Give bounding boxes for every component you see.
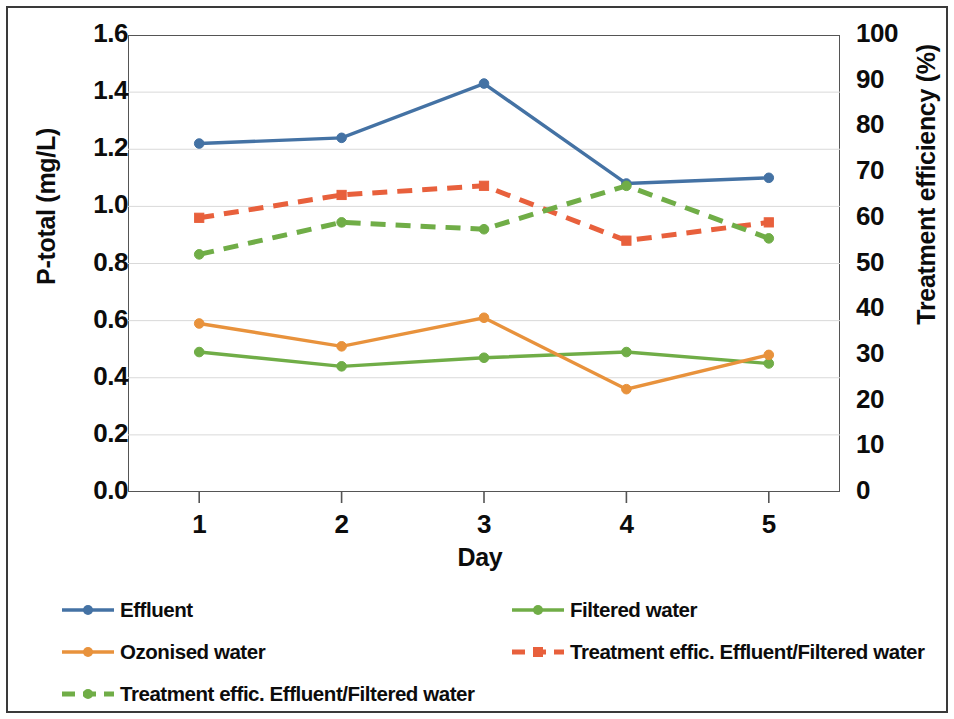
series-line-4 bbox=[199, 186, 769, 255]
series-0-point-2 bbox=[479, 79, 489, 89]
y-axis-left-tick-label: 1.6 bbox=[8, 18, 128, 49]
y-axis-right-tick-label: 10 bbox=[856, 429, 946, 460]
y-axis-right-tick-label: 60 bbox=[856, 201, 946, 232]
y-axis-right-tick-label: 30 bbox=[856, 338, 946, 369]
legend-marker-icon bbox=[510, 643, 566, 661]
legend-item-label: Effluent bbox=[120, 598, 193, 622]
series-0-point-1 bbox=[337, 133, 347, 143]
series-3-point-2 bbox=[479, 181, 488, 190]
x-axis-tick-label: 1 bbox=[169, 509, 229, 540]
y-axis-right-tick-label: 20 bbox=[856, 384, 946, 415]
series-2-point-3 bbox=[622, 384, 632, 394]
x-axis-tick-label: 2 bbox=[312, 509, 372, 540]
series-3-point-4 bbox=[764, 218, 773, 227]
y-axis-right-tick-label: 80 bbox=[856, 109, 946, 140]
series-2-point-2 bbox=[479, 313, 489, 323]
series-4-point-0 bbox=[194, 250, 204, 260]
legend-item-label: Treatment effic. Effluent/Filtered water bbox=[570, 640, 925, 664]
y-axis-right-tick-label: 90 bbox=[856, 64, 946, 95]
y-axis-right-tick-label: 70 bbox=[856, 155, 946, 186]
y-axis-left-tick-label: 0.2 bbox=[8, 418, 128, 449]
legend-item[interactable]: Ozonised water bbox=[60, 640, 265, 664]
y-axis-right-tick-label: 50 bbox=[856, 247, 946, 278]
series-4-point-2 bbox=[479, 224, 489, 234]
legend-item-label: Filtered water bbox=[570, 598, 697, 622]
legend-item-label: Treatment effic. Effluent/Filtered water bbox=[120, 682, 475, 706]
y-axis-right-tick-label: 100 bbox=[856, 18, 946, 49]
series-3-point-3 bbox=[622, 236, 631, 245]
y-axis-left-tick-label: 1.2 bbox=[8, 132, 128, 163]
y-axis-right-tick-label: 0 bbox=[856, 475, 946, 506]
chart-legend: EffluentFiltered waterOzonised waterTrea… bbox=[60, 598, 950, 710]
y-axis-left-tick-label: 0.0 bbox=[8, 475, 128, 506]
series-2-point-4 bbox=[764, 350, 774, 360]
x-axis-tick-label: 5 bbox=[739, 509, 799, 540]
series-4-point-3 bbox=[622, 181, 632, 191]
legend-item[interactable]: Filtered water bbox=[510, 598, 697, 622]
y-axis-left-tick-label: 0.8 bbox=[8, 247, 128, 278]
legend-item[interactable]: Treatment effic. Effluent/Filtered water bbox=[510, 640, 925, 664]
y-axis-left-tick-label: 1.4 bbox=[8, 75, 128, 106]
series-3-point-1 bbox=[337, 190, 346, 199]
x-axis-title: Day bbox=[130, 543, 830, 572]
y-axis-left-tick-label: 0.4 bbox=[8, 361, 128, 392]
series-0-point-0 bbox=[194, 139, 204, 149]
series-1-point-0 bbox=[194, 347, 204, 357]
series-4-point-1 bbox=[337, 218, 347, 228]
chart-figure: P-total (mg/L) Treatment efficiency (%) … bbox=[0, 0, 954, 719]
legend-item-label: Ozonised water bbox=[120, 640, 265, 664]
y-axis-right-tick-label: 40 bbox=[856, 292, 946, 323]
legend-item[interactable]: Effluent bbox=[60, 598, 193, 622]
x-axis-tick-label: 3 bbox=[454, 509, 514, 540]
series-1-point-1 bbox=[337, 362, 347, 372]
legend-marker-icon bbox=[510, 601, 566, 619]
legend-marker-icon bbox=[60, 601, 116, 619]
legend-marker-icon bbox=[60, 643, 116, 661]
series-0-point-4 bbox=[764, 173, 774, 183]
series-2-point-0 bbox=[194, 319, 204, 329]
series-3-point-0 bbox=[195, 213, 204, 222]
series-1-point-3 bbox=[622, 347, 632, 357]
series-4-point-4 bbox=[764, 234, 774, 244]
y-axis-left-tick-label: 0.6 bbox=[8, 304, 128, 335]
series-2-point-1 bbox=[337, 342, 347, 352]
x-axis-tick-label: 4 bbox=[596, 509, 656, 540]
legend-item[interactable]: Treatment effic. Effluent/Filtered water bbox=[60, 682, 475, 706]
series-line-0 bbox=[199, 84, 769, 184]
y-axis-left-tick-label: 1.0 bbox=[8, 189, 128, 220]
series-1-point-2 bbox=[479, 353, 489, 363]
legend-marker-icon bbox=[60, 685, 116, 703]
